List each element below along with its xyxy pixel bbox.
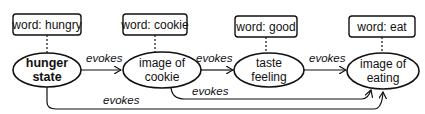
edge-label: evokes <box>309 52 346 64</box>
word-box-good: word: good <box>235 16 297 37</box>
svg-text:hunger: hunger <box>26 56 68 70</box>
edge-label: evokes <box>196 52 233 64</box>
word-label: word: good <box>235 20 295 34</box>
svg-text:taste: taste <box>256 56 282 70</box>
node-taste-feeling: taste feeling <box>234 53 304 87</box>
word-box-eat: word: eat <box>349 16 415 37</box>
svg-text:image of: image of <box>139 56 186 70</box>
diagram-canvas: word: hungry word: cookie word: good wor… <box>0 0 425 114</box>
node-image-of-cookie: image of cookie <box>123 52 201 88</box>
word-label: word: eat <box>356 20 407 34</box>
node-image-of-eating: image of eating <box>347 53 419 89</box>
edge-label: evokes <box>86 52 123 64</box>
word-label: word: hungry <box>11 18 81 32</box>
word-box-hungry: word: hungry <box>11 14 81 35</box>
edge-label: evokes <box>192 85 229 97</box>
word-label: word: cookie <box>120 18 189 32</box>
edge-label: evokes <box>103 94 140 106</box>
node-hunger-state: hunger state <box>13 53 81 87</box>
svg-text:state: state <box>32 70 61 84</box>
svg-text:feeling: feeling <box>251 70 286 84</box>
svg-text:cookie: cookie <box>145 70 180 84</box>
svg-text:eating: eating <box>367 71 400 85</box>
svg-text:image of: image of <box>360 57 407 71</box>
word-box-cookie: word: cookie <box>120 14 189 35</box>
